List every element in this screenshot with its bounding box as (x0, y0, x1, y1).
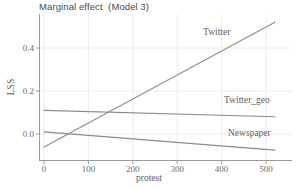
series-line-twitter-geo (44, 110, 275, 116)
x-axis-ticks (44, 161, 266, 165)
y-axis-ticks (36, 48, 40, 134)
y-tick-label: 0.0 (12, 129, 34, 139)
series-label-twitter: Twitter (203, 27, 230, 37)
grid-horizontal (40, 48, 292, 134)
y-tick-label: 0.4 (12, 43, 34, 53)
plot-canvas (0, 0, 298, 188)
y-axis-title: LSS (6, 67, 16, 107)
x-axis-title: protest (0, 173, 298, 183)
marginal-effect-chart: Marginal effect (Model 3) (0, 0, 298, 188)
series-label-newspaper: Newspaper (228, 128, 271, 138)
series-label-twitter-geo: Twitter_geo (224, 95, 270, 105)
